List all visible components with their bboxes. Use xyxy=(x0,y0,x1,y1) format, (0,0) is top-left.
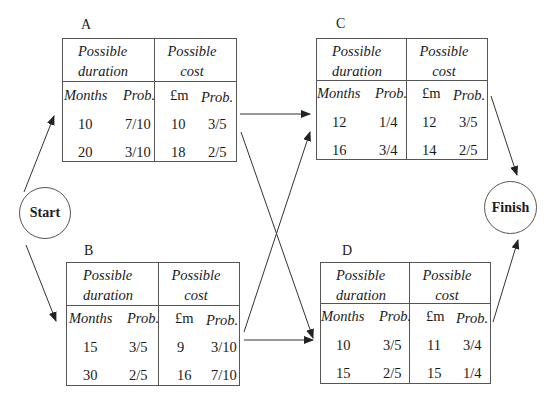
activity-d-table: Possibleduration Possiblecost Months Pro… xyxy=(320,262,491,384)
cell: 12 xyxy=(332,115,347,130)
activity-b-table: Possibleduration Possiblecost Months Pro… xyxy=(66,262,240,386)
cell: 2/5 xyxy=(383,366,402,381)
cell: 18 xyxy=(171,145,186,160)
months-header: Months xyxy=(321,309,365,324)
cost-prob-header: Prob. xyxy=(453,88,485,103)
cell: 3/5 xyxy=(459,115,478,130)
cell: 30 xyxy=(83,368,98,383)
cost-header-2: cost xyxy=(435,287,458,303)
activity-a-table: Possibleduration Possiblecost Months Pro… xyxy=(62,38,237,162)
cost-unit-header: £m xyxy=(422,86,441,101)
activity-a-label: A xyxy=(81,17,91,33)
cell: 3/10 xyxy=(125,145,151,160)
cell: 3/10 xyxy=(211,340,237,355)
duration-header-2: duration xyxy=(332,63,382,79)
finish-label: Finish xyxy=(492,200,529,216)
cell: 16 xyxy=(332,143,347,158)
duration-header: Possible xyxy=(78,43,127,59)
cell: 10 xyxy=(171,117,186,132)
cost-header-2: cost xyxy=(184,287,207,303)
cost-unit-header: £m xyxy=(175,311,194,326)
cost-unit-header: £m xyxy=(426,309,445,324)
cell: 2/5 xyxy=(459,143,478,158)
duration-prob-header: Prob. xyxy=(127,311,159,326)
activity-c-table: Possibleduration Possiblecost Months Pro… xyxy=(316,38,488,160)
cell: 3/4 xyxy=(463,338,482,353)
duration-prob-header: Prob. xyxy=(375,86,407,101)
cell: 20 xyxy=(78,145,93,160)
cell: 3/5 xyxy=(129,340,148,355)
start-node: Start xyxy=(19,187,71,239)
cell: 3/4 xyxy=(379,143,398,158)
cell: 11 xyxy=(427,338,441,353)
cost-header: Possible xyxy=(422,267,471,283)
cell: 15 xyxy=(427,366,442,381)
cell: 9 xyxy=(177,340,184,355)
cell: 15 xyxy=(83,340,98,355)
edge-c-finish xyxy=(491,96,517,175)
duration-header: Possible xyxy=(332,43,381,59)
cost-prob-header: Prob. xyxy=(456,311,488,326)
cost-unit-header: £m xyxy=(170,88,189,103)
duration-prob-header: Prob. xyxy=(123,88,155,103)
cost-prob-header: Prob. xyxy=(201,90,233,105)
cell: 10 xyxy=(78,117,93,132)
cost-header-2: cost xyxy=(432,63,455,79)
cell: 1/4 xyxy=(379,115,398,130)
cell: 3/5 xyxy=(383,338,402,353)
activity-d-label: D xyxy=(342,243,352,259)
cost-header: Possible xyxy=(171,267,220,283)
months-header: Months xyxy=(69,311,113,326)
cost-header-2: cost xyxy=(180,63,203,79)
cell: 16 xyxy=(177,368,192,383)
cell: 3/5 xyxy=(208,117,227,132)
duration-prob-header: Prob. xyxy=(379,309,411,324)
cost-header: Possible xyxy=(167,43,216,59)
months-header: Months xyxy=(317,86,361,101)
edge-d-finish xyxy=(493,240,518,322)
edge-start-b xyxy=(26,245,56,321)
cell: 7/10 xyxy=(211,368,237,383)
duration-header: Possible xyxy=(336,267,385,283)
cost-header: Possible xyxy=(419,43,468,59)
cell: 15 xyxy=(336,366,351,381)
edge-start-a xyxy=(24,116,54,192)
duration-header: Possible xyxy=(83,267,132,283)
activity-c-label: C xyxy=(336,16,345,32)
cell: 12 xyxy=(422,115,437,130)
finish-node: Finish xyxy=(484,181,537,234)
cell: 2/5 xyxy=(129,368,148,383)
cost-prob-header: Prob. xyxy=(206,313,238,328)
start-label: Start xyxy=(30,205,60,221)
cell: 1/4 xyxy=(463,366,482,381)
cell: 14 xyxy=(422,143,437,158)
cell: 7/10 xyxy=(125,117,151,132)
cell: 2/5 xyxy=(208,145,227,160)
cell: 10 xyxy=(336,338,351,353)
months-header: Months xyxy=(64,88,108,103)
duration-header-2: duration xyxy=(336,287,386,303)
duration-header-2: duration xyxy=(78,63,128,79)
activity-b-label: B xyxy=(84,243,93,259)
duration-header-2: duration xyxy=(83,287,133,303)
